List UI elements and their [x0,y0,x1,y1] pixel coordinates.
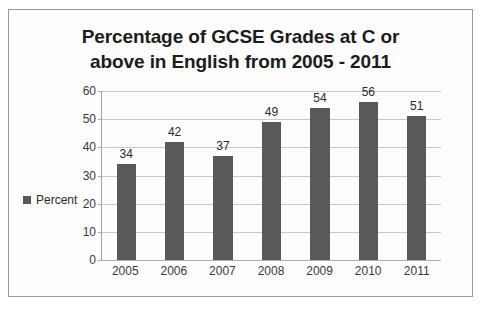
y-tick-label-50: 50 [83,112,96,126]
bar-value-label: 51 [410,99,423,113]
chart-title-line-2: above in English from 2005 - 2011 [9,49,472,74]
bar[interactable]: 54 [310,108,329,260]
bar-slot: 51 [393,91,441,260]
bar-slot: 49 [247,91,295,260]
x-axis-label: 2005 [101,264,150,278]
y-tick-label-60: 60 [83,84,96,98]
bar[interactable]: 42 [165,142,184,260]
bar-slot: 37 [199,91,247,260]
legend-label-percent: Percent [36,193,77,207]
bar[interactable]: 34 [117,164,136,260]
x-axis-label: 2011 [392,264,441,278]
bar-value-label: 42 [168,125,181,139]
plot-inner: 0102030405060 34423749545651 [101,91,441,260]
bar-value-label: 54 [313,91,326,105]
bar-series-percent: 34423749545651 [102,91,441,260]
bar-slot: 54 [296,91,344,260]
x-axis-labels: 2005200620072008200920102011 [101,264,441,278]
x-axis-label: 2007 [198,264,247,278]
y-tick-label-0: 0 [89,253,96,267]
legend-swatch-percent [23,196,31,204]
y-tick-label-10: 10 [83,225,96,239]
bar[interactable]: 56 [359,102,378,260]
y-tick-mark-0 [98,260,102,261]
x-axis-label: 2010 [344,264,393,278]
bar-slot: 34 [102,91,150,260]
plot-area: 0102030405060 34423749545651 [101,91,441,260]
bar[interactable]: 37 [213,156,232,260]
chart-card: Percentage of GCSE Grades at C or above … [8,9,473,297]
x-axis-label: 2009 [295,264,344,278]
y-tick-label-20: 20 [83,197,96,211]
bar[interactable]: 51 [407,116,426,260]
y-tick-label-40: 40 [83,140,96,154]
x-axis-label: 2008 [247,264,296,278]
bar[interactable]: 49 [262,122,281,260]
y-tick-label-30: 30 [83,169,96,183]
bar-value-label: 56 [362,85,375,99]
bar-value-label: 34 [120,147,133,161]
chart-title: Percentage of GCSE Grades at C or above … [9,24,472,74]
chart-title-line-1: Percentage of GCSE Grades at C or [9,24,472,49]
bar-slot: 42 [150,91,198,260]
bar-value-label: 37 [216,139,229,153]
bar-slot: 56 [344,91,392,260]
x-axis-label: 2006 [150,264,199,278]
gridline-0 [102,260,441,261]
bar-value-label: 49 [265,105,278,119]
chart-legend: Percent [23,193,77,207]
